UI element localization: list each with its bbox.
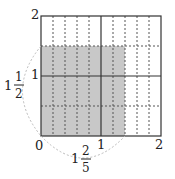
y-label-2: 2 [31,7,39,22]
shaded-region [41,46,125,136]
svg-text:5: 5 [82,161,90,175]
origin-label: 0 [35,138,43,153]
area-model-diagram: 2 1 0 1 2 1 1 2 1 2 5 [0,0,175,179]
x-label-1: 1 [97,137,105,152]
y-label-1: 1 [31,67,39,82]
x-label-2: 2 [155,137,163,152]
svg-text:1: 1 [15,70,23,84]
svg-text:2: 2 [15,87,23,101]
svg-text:1: 1 [71,151,79,166]
svg-text:1: 1 [4,78,12,93]
height-brace-arc [23,46,42,136]
width-label: 1 2 5 [71,144,91,175]
svg-text:2: 2 [82,144,90,158]
height-label: 1 1 2 [4,70,24,101]
